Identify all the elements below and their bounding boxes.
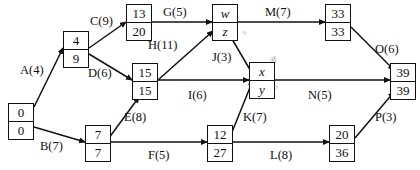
edge-label-J: J(3) [212, 50, 231, 65]
network-node-n2: 1320 [126, 4, 152, 41]
network-node-n7: 1227 [207, 125, 233, 162]
edge-label-P: P(3) [375, 110, 397, 125]
node-earliest-time: 33 [326, 5, 350, 23]
node-latest-time: 15 [133, 82, 157, 99]
network-node-n6: xy [249, 62, 275, 99]
network-node-n5: wz [212, 4, 238, 41]
node-earliest-time: 15 [133, 64, 157, 82]
node-earliest-time: 20 [330, 126, 354, 144]
edge-label-C: C(9) [90, 14, 113, 29]
node-latest-time: 7 [86, 144, 110, 161]
edge-label-E: E(8) [124, 110, 146, 125]
node-latest-time: 27 [208, 144, 232, 161]
node-earliest-time: x [250, 63, 274, 81]
edge-label-D: D(6) [88, 66, 112, 81]
node-latest-time: 0 [9, 122, 33, 139]
node-earliest-time: 7 [86, 126, 110, 144]
edge-label-A: A(4) [20, 63, 44, 78]
edge-label-M: M(7) [265, 5, 291, 20]
edge-label-H: H(11) [148, 38, 177, 53]
node-earliest-time: 12 [208, 126, 232, 144]
edge-label-K: K(7) [243, 110, 267, 125]
edge-label-O: O(6) [375, 42, 399, 57]
edge-label-I: I(6) [188, 88, 207, 103]
node-latest-time: 39 [391, 82, 415, 99]
node-earliest-time: w [213, 5, 237, 23]
edge-label-F: F(5) [148, 148, 170, 163]
network-node-n8: 3333 [325, 4, 351, 41]
node-latest-time: 36 [330, 144, 354, 161]
network-node-n0: 00 [8, 103, 34, 140]
edge-label-G: G(5) [163, 5, 187, 20]
network-node-n4: 77 [85, 125, 111, 162]
edge-label-B: B(7) [40, 139, 63, 154]
network-node-n9: 2036 [329, 125, 355, 162]
node-earliest-time: 0 [9, 104, 33, 122]
network-node-n3: 1515 [132, 63, 158, 100]
activity-network-diagram: 00491320151577wzxy1227333320363939 A(4)B… [0, 0, 420, 170]
edge-label-N: N(5) [308, 88, 332, 103]
node-latest-time: y [250, 81, 274, 98]
network-node-n1: 49 [63, 31, 89, 68]
network-node-n10: 3939 [390, 63, 416, 100]
node-earliest-time: 13 [127, 5, 151, 23]
node-latest-time: z [213, 23, 237, 40]
node-latest-time: 9 [64, 50, 88, 67]
node-latest-time: 33 [326, 23, 350, 40]
node-earliest-time: 39 [391, 64, 415, 82]
edge-label-L: L(8) [270, 148, 292, 163]
node-earliest-time: 4 [64, 32, 88, 50]
